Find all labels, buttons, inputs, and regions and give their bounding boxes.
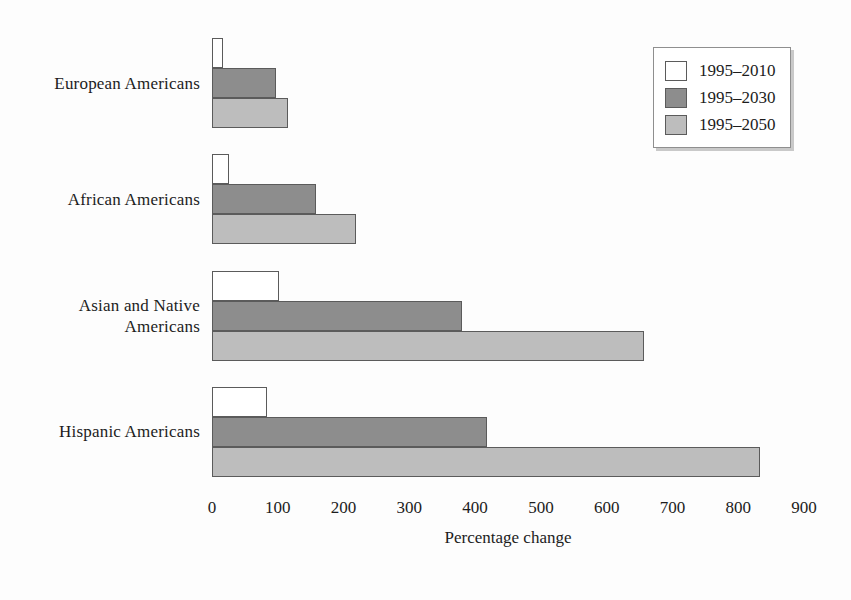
category-label-line: Americans (0, 316, 200, 337)
bar (212, 301, 462, 331)
x-tick-label: 100 (265, 497, 291, 519)
x-tick-label: 700 (660, 497, 686, 519)
category-label-line: European Americans (0, 73, 200, 94)
bar (212, 68, 276, 98)
bar (212, 331, 644, 361)
bar (212, 447, 760, 477)
bar (212, 271, 279, 301)
legend-label: 1995–2030 (699, 88, 776, 108)
category-label: Asian and NativeAmericans (0, 295, 200, 337)
bar (212, 214, 356, 244)
bar (212, 154, 229, 184)
x-tick-label: 600 (594, 497, 620, 519)
category-label: African Americans (0, 189, 200, 210)
category-label-line: Asian and Native (0, 295, 200, 316)
x-axis-ticks: 0100200300400500600700800900 (212, 497, 804, 523)
x-tick-label: 300 (397, 497, 423, 519)
x-tick-label: 400 (462, 497, 488, 519)
legend-swatch-1995-2010 (665, 61, 687, 81)
legend-item[interactable]: 1995–2030 (665, 84, 776, 111)
category-label: European Americans (0, 73, 200, 94)
bar (212, 38, 223, 68)
bar-group (212, 154, 804, 244)
x-axis-title: Percentage change (212, 528, 804, 548)
x-tick-label: 900 (791, 497, 817, 519)
legend-item[interactable]: 1995–2010 (665, 57, 776, 84)
legend-label: 1995–2010 (699, 61, 776, 81)
legend: 1995–2010 1995–2030 1995–2050 (653, 47, 791, 148)
x-tick-label: 500 (528, 497, 554, 519)
bar (212, 387, 267, 417)
x-tick-label: 200 (331, 497, 357, 519)
legend-item[interactable]: 1995–2050 (665, 111, 776, 138)
bar-chart: European AmericansAfrican AmericansAsian… (0, 0, 851, 600)
legend-label: 1995–2050 (699, 115, 776, 135)
category-label-line: Hispanic Americans (0, 421, 200, 442)
legend-swatch-1995-2050 (665, 115, 687, 135)
x-tick-label: 800 (725, 497, 751, 519)
category-label-line: African Americans (0, 189, 200, 210)
bar (212, 98, 288, 128)
x-tick-label: 0 (208, 497, 217, 519)
bar (212, 417, 487, 447)
legend-swatch-1995-2030 (665, 88, 687, 108)
category-axis-labels: European AmericansAfrican AmericansAsian… (0, 30, 200, 495)
category-label: Hispanic Americans (0, 421, 200, 442)
bar (212, 184, 316, 214)
bar-group (212, 271, 804, 361)
bar-group (212, 387, 804, 477)
